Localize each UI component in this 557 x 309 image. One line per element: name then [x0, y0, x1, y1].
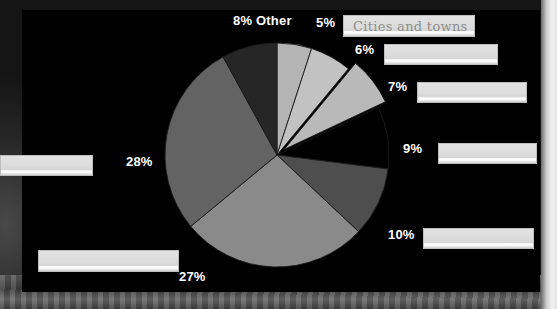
background-photo-right-edge [541, 0, 557, 309]
pie-label-9: 9% [403, 142, 422, 155]
legend-cities-and-towns[interactable]: Cities and towns [343, 15, 475, 37]
legend-item-6[interactable] [384, 44, 498, 65]
legend-item-7[interactable] [417, 82, 527, 103]
pie-slice-group [165, 43, 389, 267]
pie-label-27: 27% [179, 270, 206, 283]
pie-label-5: 5% [316, 16, 335, 29]
legend-item-27[interactable] [38, 250, 179, 272]
pie-label-28: 28% [126, 155, 153, 168]
legend-item-10[interactable] [423, 228, 534, 249]
legend-item-28[interactable] [0, 155, 93, 176]
pie-label-10: 10% [388, 228, 415, 241]
legend-cities-and-towns-label: Cities and towns [353, 20, 468, 33]
pie-label-7: 7% [388, 80, 407, 93]
slide-panel: 8% Other 5% 6% 7% 9% 10% 27% 28% Cities … [22, 10, 540, 292]
legend-item-9[interactable] [438, 143, 537, 164]
pie-label-other: 8% Other [233, 14, 292, 27]
pie-label-6: 6% [355, 43, 374, 56]
